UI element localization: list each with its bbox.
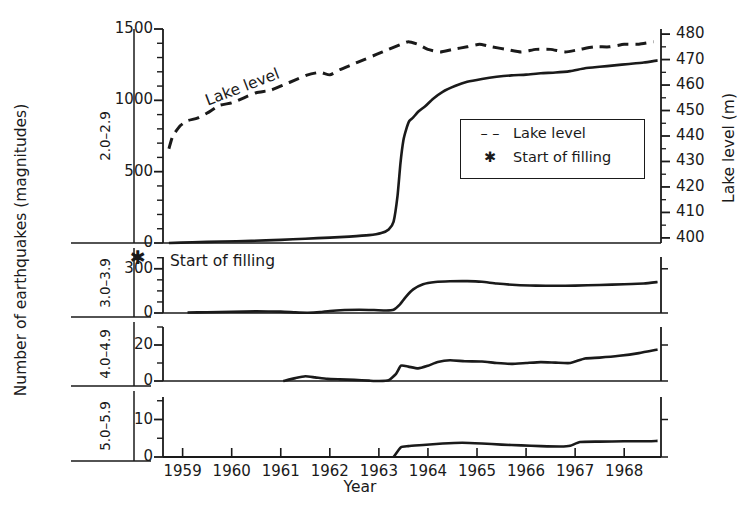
legend-key-dashed-line: – –	[469, 125, 511, 141]
legend-key-asterisk-icon: ✱	[469, 149, 511, 165]
x-axis-label: Year	[300, 478, 420, 496]
right-ytick-label-430: 430	[676, 151, 705, 169]
xtick-label-1965: 1965	[451, 462, 503, 480]
xtick-label-1968: 1968	[598, 462, 650, 480]
earthquake-lake-level-figure: Number of earthquakes (magnitudes) Lake …	[0, 0, 753, 510]
magnitude-band-label-0: 2.0–2.9	[96, 91, 114, 181]
legend-label-start-of-filling: Start of filling	[513, 149, 611, 165]
legend-item-lake-level: – – Lake level	[461, 125, 644, 150]
xtick-label-1960: 1960	[206, 462, 258, 480]
xtick-label-1967: 1967	[549, 462, 601, 480]
xtick-label-1966: 1966	[500, 462, 552, 480]
right-ytick-label-480: 480	[676, 24, 705, 42]
xtick-label-1964: 1964	[402, 462, 454, 480]
series-cumulative-earthquakes-3-0-3-9	[188, 281, 658, 313]
xtick-label-1961: 1961	[255, 462, 307, 480]
right-ytick-label-440: 440	[676, 126, 705, 144]
series-cumulative-earthquakes-4-0-4-9	[283, 350, 657, 382]
y-axis-label-right: Lake level (m)	[718, 48, 740, 248]
right-ytick-label-470: 470	[676, 50, 705, 68]
right-ytick-label-420: 420	[676, 177, 705, 195]
legend-label-lake-level: Lake level	[513, 125, 586, 141]
xtick-label-1962: 1962	[304, 462, 356, 480]
legend: – – Lake level ✱ Start of filling	[460, 119, 645, 179]
right-ytick-label-410: 410	[676, 202, 705, 220]
legend-item-start-of-filling: ✱ Start of filling	[461, 149, 644, 174]
ytick-label-0-1500: 1500	[85, 19, 153, 37]
y-axis-label-left: Number of earthquakes (magnitudes)	[9, 100, 33, 400]
magnitude-band-label-3: 5.0–5.9	[96, 381, 114, 471]
xtick-label-1959: 1959	[157, 462, 209, 480]
right-ytick-label-460: 460	[676, 75, 705, 93]
xtick-label-1963: 1963	[353, 462, 405, 480]
right-ytick-label-400: 400	[676, 228, 705, 246]
start-of-filling-annotation: Start of filling	[170, 252, 275, 270]
right-ytick-label-450: 450	[676, 101, 705, 119]
